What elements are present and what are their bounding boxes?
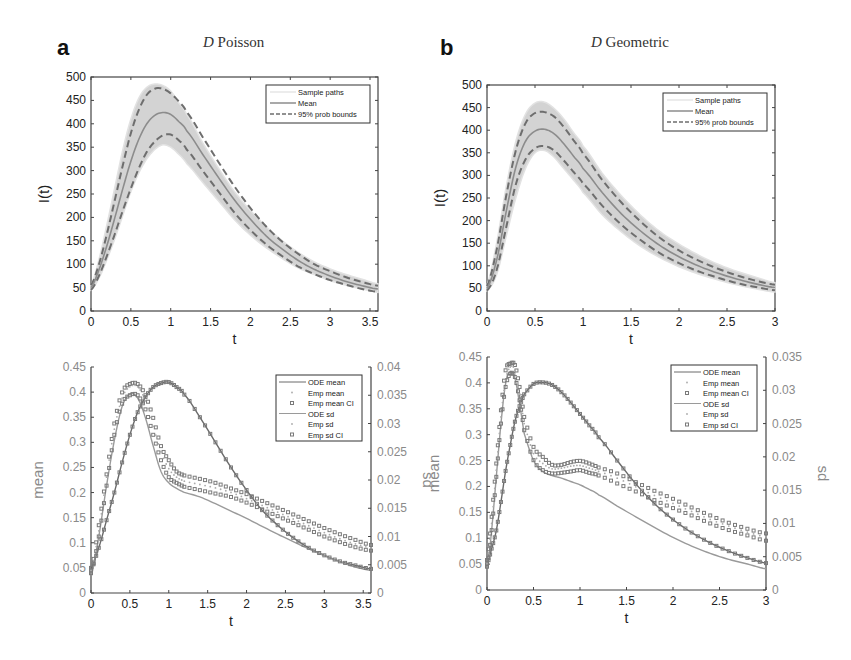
y-right-tick-label: 0.03 <box>377 417 401 431</box>
x-tick-label: 3 <box>321 597 328 611</box>
chart-b-geometric-mean-sd: 00.511.522.5300.050.10.150.20.250.30.350… <box>425 350 832 626</box>
y-tick-label: 0.35 <box>459 402 483 416</box>
y-tick-label: 0.45 <box>459 350 483 364</box>
x-axis-label: t <box>629 331 633 347</box>
y-right-tick-label: 0.02 <box>377 473 401 487</box>
y-right-tick-label: 0.035 <box>377 388 407 402</box>
y-tick-label: 450 <box>462 101 482 115</box>
x-tick-label: 1.5 <box>199 597 216 611</box>
y-axis-label: I(t) <box>35 185 52 203</box>
x-tick-label: 2.5 <box>277 597 294 611</box>
legend: ODE meanEmp meanEmp mean CIODE sdEmp sdE… <box>671 365 757 431</box>
x-tick-label: 0 <box>484 315 491 329</box>
x-tick-label: 0.5 <box>122 597 139 611</box>
y-axis-label: I(t) <box>431 189 448 207</box>
x-tick-label: 1.5 <box>202 315 219 329</box>
y-tick-label: 250 <box>462 191 482 205</box>
chart-b-geometric-infected: 00.511.522.53050100150200250300350400450… <box>431 78 779 347</box>
y-right-tick-label: 0 <box>772 583 779 597</box>
y-tick-label: 250 <box>66 187 86 201</box>
y-tick-label: 0.45 <box>63 360 87 374</box>
y-tick-label: 0.1 <box>465 531 482 545</box>
y-tick-label: 200 <box>462 214 482 228</box>
y-right-tick-label: 0.025 <box>772 417 802 431</box>
y-tick-label: 0.35 <box>63 410 87 424</box>
y-right-tick-label: 0.005 <box>377 558 407 572</box>
x-tick-label: 0.5 <box>123 315 140 329</box>
y-tick-label: 150 <box>462 236 482 250</box>
y-tick-label: 50 <box>73 281 87 295</box>
legend-entry: Mean <box>695 107 714 116</box>
y-tick-label: 50 <box>469 281 483 295</box>
y-tick-label: 400 <box>66 117 86 131</box>
legend-entry: Sample paths <box>695 96 741 105</box>
x-tick-label: 0 <box>484 594 491 608</box>
y-tick-label: 0.25 <box>63 460 87 474</box>
y-right-tick-label: 0.04 <box>377 360 401 374</box>
x-axis-label: t <box>233 331 237 347</box>
y-right-tick-label: 0 <box>377 586 384 600</box>
legend: Sample pathsMean95% prob bounds <box>266 85 370 123</box>
y-tick-label: 300 <box>462 168 482 182</box>
y-tick-label: 0 <box>79 586 86 600</box>
legend: Sample pathsMean95% prob bounds <box>663 93 767 131</box>
y-tick-label: 0.2 <box>69 486 86 500</box>
x-tick-label: 2.5 <box>719 315 736 329</box>
y-right-tick-label: 0.015 <box>772 483 802 497</box>
y-tick-label: 500 <box>66 70 86 84</box>
x-axis-label: t <box>229 613 233 629</box>
y-tick-label: 400 <box>462 123 482 137</box>
x-tick-label: 1 <box>167 315 174 329</box>
y-tick-label: 100 <box>66 257 86 271</box>
x-tick-label: 1.5 <box>618 594 635 608</box>
y-right-axis-label: sd <box>815 466 832 482</box>
y-right-tick-label: 0.035 <box>772 350 802 364</box>
y-tick-label: 450 <box>66 93 86 107</box>
x-tick-label: 3 <box>763 594 770 608</box>
legend-entry: ODE mean <box>308 378 345 387</box>
x-tick-label: 0 <box>88 597 95 611</box>
y-tick-label: 300 <box>66 164 86 178</box>
x-tick-label: 1 <box>580 315 587 329</box>
legend: ODE meanEmp meanEmp mean CIODE sdEmp sdE… <box>276 375 362 441</box>
y-right-tick-label: 0.025 <box>377 445 407 459</box>
x-axis-label: t <box>625 610 629 626</box>
legend-entry: Mean <box>298 99 317 108</box>
x-tick-label: 2 <box>676 315 683 329</box>
legend-entry: Emp sd CI <box>703 421 738 430</box>
legend-entry: Emp mean <box>308 389 344 398</box>
legend-entry: Emp sd <box>703 410 728 419</box>
y-tick-label: 500 <box>462 78 482 92</box>
y-tick-label: 0.1 <box>69 536 86 550</box>
legend-entry: ODE sd <box>703 400 729 409</box>
y-tick-label: 0.3 <box>465 428 482 442</box>
y-tick-label: 200 <box>66 210 86 224</box>
x-tick-label: 2 <box>243 597 250 611</box>
y-right-tick-label: 0.02 <box>772 450 796 464</box>
y-right-tick-label: 0.005 <box>772 550 802 564</box>
y-tick-label: 0.3 <box>69 435 86 449</box>
x-tick-label: 0.5 <box>525 594 542 608</box>
y-tick-label: 0 <box>475 583 482 597</box>
y-tick-label: 0.05 <box>459 557 483 571</box>
x-tick-label: 2 <box>247 315 254 329</box>
x-tick-label: 3 <box>772 315 779 329</box>
x-tick-label: 0.5 <box>527 315 544 329</box>
x-tick-label: 2 <box>670 594 677 608</box>
y-tick-label: 0.4 <box>69 385 86 399</box>
y-tick-label: 150 <box>66 234 86 248</box>
y-right-tick-label: 0.015 <box>377 501 407 515</box>
y-axis-label: mean <box>29 461 46 499</box>
y-tick-label: 0.15 <box>63 511 87 525</box>
x-tick-label: 3.5 <box>362 315 379 329</box>
legend-entry: Sample paths <box>298 88 344 97</box>
y-tick-label: 0.05 <box>63 561 87 575</box>
figure-canvas: 00.511.522.533.5050100150200250300350400… <box>0 0 851 660</box>
y-tick-label: 0.4 <box>465 376 482 390</box>
legend-entry: Emp mean CI <box>703 389 749 398</box>
y-tick-label: 350 <box>66 140 86 154</box>
y-tick-label: 0 <box>475 304 482 318</box>
chart-a-poisson-infected: 00.511.522.533.5050100150200250300350400… <box>35 70 379 347</box>
y-right-tick-label: 0.03 <box>772 383 796 397</box>
legend-entry: 95% prob bounds <box>695 118 754 127</box>
